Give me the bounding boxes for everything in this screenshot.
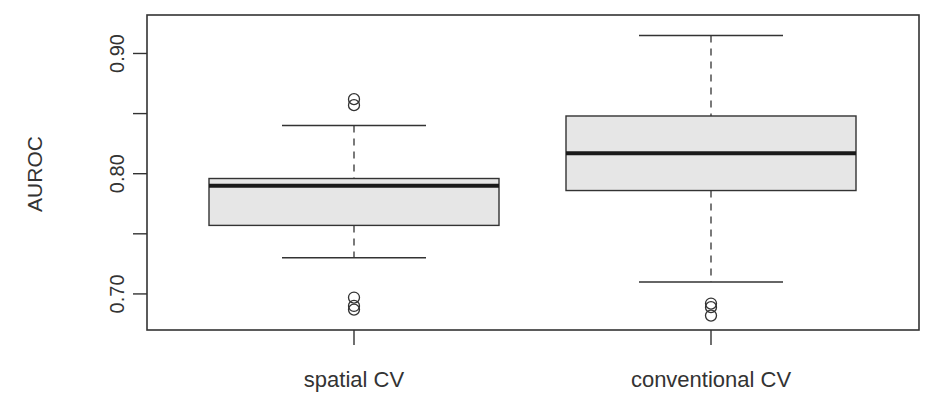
y-axis-title: AUROC — [23, 136, 46, 212]
box-spatial-cv — [209, 94, 499, 315]
x-tick-label: spatial CV — [304, 367, 405, 392]
x-tick-label: conventional CV — [631, 367, 792, 392]
y-tick-label: 0.90 — [106, 34, 128, 73]
outlier-point — [706, 310, 717, 321]
box-conventional-cv — [566, 35, 856, 321]
y-tick-label: 0.70 — [106, 274, 128, 313]
y-axis: 0.700.800.90 — [106, 34, 147, 313]
boxes — [209, 35, 856, 321]
boxplot-chart: 0.700.800.90 spatial CVconventional CV A… — [0, 0, 937, 414]
x-axis: spatial CVconventional CV — [304, 330, 792, 392]
y-tick-label: 0.80 — [106, 154, 128, 193]
